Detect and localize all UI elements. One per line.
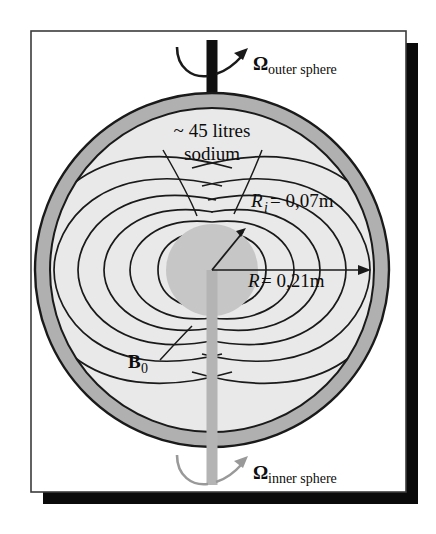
inner-radius-value: = 0,07m <box>270 190 334 211</box>
sodium-volume-line1: ~ 45 litres <box>174 120 251 141</box>
figure-root: Ω outer sphere ~ 45 litres sodium R i = … <box>0 0 436 534</box>
inner-radius-subscript: i <box>264 200 268 215</box>
inner-rotation-symbol: Ω <box>253 462 268 483</box>
inner-sphere-drive-shaft <box>207 270 218 485</box>
inner-radius-symbol: R <box>250 190 263 211</box>
sodium-volume-line2: sodium <box>184 143 240 164</box>
outer-radius-value: = 0,21m <box>261 270 325 291</box>
field-subscript: 0 <box>141 361 148 376</box>
outer-rotation-subscript: outer sphere <box>268 62 337 77</box>
outer-radius-symbol: R <box>247 270 260 291</box>
field-symbol: B <box>128 351 141 372</box>
inner-rotation-subscript: inner sphere <box>268 471 337 486</box>
dynamo-schematic-diagram: Ω outer sphere ~ 45 litres sodium R i = … <box>0 0 436 534</box>
outer-rotation-symbol: Ω <box>253 53 268 74</box>
